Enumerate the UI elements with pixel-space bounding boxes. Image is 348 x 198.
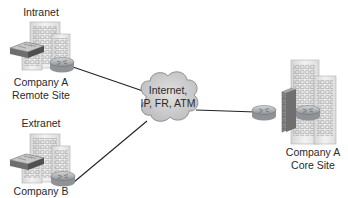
core-site-building-icon bbox=[291, 60, 336, 144]
link-remote-to-cloud bbox=[73, 67, 143, 91]
core-internal-router-icon bbox=[296, 106, 320, 121]
link-cloud-to-core bbox=[196, 110, 256, 112]
cloud-label-line2: IP, FR, ATM bbox=[134, 97, 202, 110]
remote-site-category-label: Intranet bbox=[21, 6, 61, 18]
core-edge-router-icon bbox=[252, 106, 276, 121]
core-firewall-icon bbox=[282, 88, 296, 132]
remote-site-name-line1: Company A bbox=[9, 76, 73, 88]
remote-site-name-line2: Remote Site bbox=[9, 89, 73, 101]
link-partner-to-cloud bbox=[74, 121, 147, 182]
core-site-name-line1: Company A bbox=[281, 146, 345, 158]
remote-router-icon bbox=[50, 58, 74, 73]
core-site-name-line2: Core Site bbox=[281, 159, 345, 171]
partner-site-category-label: Extranet bbox=[19, 117, 63, 129]
partner-site-name: Company B bbox=[9, 185, 73, 197]
cloud-label-line1: Internet, bbox=[138, 84, 198, 97]
